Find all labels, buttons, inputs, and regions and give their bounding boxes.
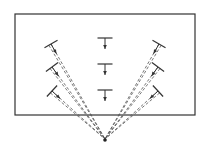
t-marker-center xyxy=(98,90,113,101)
dashed-ray xyxy=(49,45,105,139)
arrowhead-icon xyxy=(103,71,107,75)
dashed-ray xyxy=(105,68,160,139)
focal-point xyxy=(103,138,107,142)
t-marker-right xyxy=(152,63,165,76)
t-marker-left xyxy=(46,63,59,76)
dashed-ray xyxy=(105,45,161,139)
dashed-ray xyxy=(50,68,105,139)
dashed-ray xyxy=(105,93,160,139)
t-marker-left xyxy=(44,40,57,53)
convergence-diagram xyxy=(0,0,207,151)
t-marker-center xyxy=(98,64,113,75)
t-marker-right xyxy=(152,40,165,53)
arrowhead-icon xyxy=(103,97,107,101)
t-marker-center xyxy=(98,38,113,49)
dashed-ray xyxy=(50,93,105,139)
t-markers xyxy=(44,38,165,101)
t-marker-right xyxy=(150,85,163,98)
arrowhead-icon xyxy=(103,45,107,49)
t-marker-left xyxy=(47,85,60,98)
